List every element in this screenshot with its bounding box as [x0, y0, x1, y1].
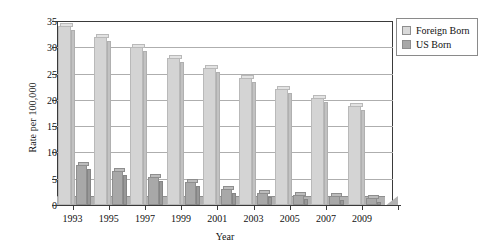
bar [76, 165, 87, 205]
bar-front-face [275, 89, 288, 205]
bar-top-face [368, 195, 379, 199]
bar-side-face [196, 186, 200, 205]
x-axis-tick-mark [73, 205, 74, 210]
bar-group [203, 21, 239, 205]
bar [257, 193, 268, 205]
legend: Foreign BornUS Born [396, 18, 478, 56]
y-axis-tick-labels: 05101520253035 [12, 21, 57, 205]
bar [311, 98, 324, 205]
x-axis-tick-label: 1995 [89, 213, 129, 224]
x-axis-tick-mark [290, 205, 291, 210]
bar [293, 195, 304, 206]
bar-front-face [257, 193, 268, 205]
bar-top-face [96, 34, 109, 38]
bar-front-face [329, 196, 340, 205]
bars-layer [57, 21, 393, 205]
bar [348, 106, 361, 205]
bar-group [348, 21, 384, 205]
bar-group [130, 21, 166, 205]
x-axis-tick-label: 1997 [125, 213, 165, 224]
bar-top-face [150, 174, 161, 178]
x-axis-tick-label: 1993 [53, 213, 93, 224]
y-axis-tick-label: 5 [17, 173, 57, 184]
bar-side-face [252, 82, 256, 205]
x-axis-tick-mark [398, 205, 399, 210]
x-axis-tick-mark [181, 205, 182, 210]
y-axis-tick-label: 0 [17, 200, 57, 211]
bar-top-face [259, 190, 270, 194]
x-axis-tick-label: 2007 [306, 213, 346, 224]
legend-label: US Born [416, 39, 451, 50]
y-axis-tick-label: 20 [17, 94, 57, 105]
bar [130, 47, 143, 205]
y-axis-tick-label: 10 [17, 147, 57, 158]
legend-item: Foreign Born [402, 23, 470, 37]
bar-chart: Rate per 100,000 05101520253035 19931995… [0, 0, 501, 249]
bar-front-face [76, 165, 87, 205]
bar-front-face [167, 58, 180, 205]
bar-group [239, 21, 275, 205]
bar-side-face [216, 72, 220, 205]
x-axis-tick-label: 1999 [161, 213, 201, 224]
bar-side-face [232, 193, 236, 205]
bar-side-face [361, 110, 365, 205]
bar [148, 177, 159, 205]
bar-side-face [180, 62, 184, 205]
bar-front-face [221, 189, 232, 205]
bar-top-face [241, 75, 254, 79]
bar-group [167, 21, 203, 205]
bar [221, 189, 232, 205]
x-axis-tick-mark [362, 205, 363, 210]
bar [275, 89, 288, 205]
bar-top-face [169, 55, 182, 59]
legend-label: Foreign Born [416, 25, 470, 36]
bar [366, 198, 377, 205]
y-axis-tick-label: 25 [17, 68, 57, 79]
bar-top-face [132, 44, 145, 48]
bar-front-face [130, 47, 143, 205]
bar-side-face [87, 169, 91, 205]
bar-top-face [313, 95, 326, 99]
bar-group [275, 21, 311, 205]
bar-top-face [205, 65, 218, 69]
bar-front-face [185, 182, 196, 205]
bar-group [58, 21, 94, 205]
x-axis-tick-mark [145, 205, 146, 210]
x-axis-tick-label: 2001 [197, 213, 237, 224]
bar-group [311, 21, 347, 205]
bar-top-face [295, 192, 306, 196]
bar-front-face [366, 198, 377, 205]
bar-side-face [107, 41, 111, 205]
x-axis-tick-mark [254, 205, 255, 210]
y-axis-tick-label: 15 [17, 121, 57, 132]
bar-side-face [71, 30, 75, 205]
bar-front-face [239, 78, 252, 205]
bar-top-face [60, 23, 73, 27]
bar-top-face [331, 193, 342, 197]
x-axis-tick-label: 2009 [342, 213, 382, 224]
bar [112, 171, 123, 205]
bar-top-face [350, 103, 363, 107]
bar-front-face [58, 26, 71, 205]
bar [239, 78, 252, 205]
bar-side-face [159, 181, 163, 205]
bar [329, 196, 340, 205]
bar-front-face [348, 106, 361, 205]
bar [167, 58, 180, 205]
y-axis-tick-label: 30 [17, 42, 57, 53]
bar-front-face [311, 98, 324, 205]
x-axis-tick-label: 2005 [270, 213, 310, 224]
bar [185, 182, 196, 205]
bar-side-face [324, 102, 328, 205]
bar-top-face [78, 162, 89, 166]
bar-top-face [223, 186, 234, 190]
bar-front-face [203, 68, 216, 205]
bar [203, 68, 216, 205]
bar-group [94, 21, 130, 205]
bar [94, 37, 107, 205]
bar-side-face [123, 175, 127, 205]
bar-front-face [112, 171, 123, 205]
legend-swatch-icon [402, 40, 411, 49]
bar-front-face [293, 195, 304, 206]
bar-top-face [187, 179, 198, 183]
